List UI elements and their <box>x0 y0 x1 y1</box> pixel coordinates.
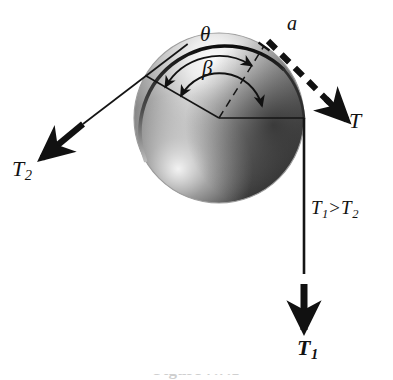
angle-label-beta: β <box>202 58 212 79</box>
tension-label-T2: T2 <box>12 158 32 183</box>
tension-inequality: T1>T2 <box>311 198 358 220</box>
inequality-rhs-base: T <box>341 197 352 218</box>
tension-label-T1: T1 <box>297 337 318 362</box>
inequality-operator: > <box>328 197 341 218</box>
figure-caption-strip: Figure 7.7.1 <box>0 374 393 380</box>
inequality-rhs-subscript: 2 <box>352 207 359 221</box>
rope-T2-arrow <box>42 124 83 158</box>
tension-label-T: T <box>349 110 361 132</box>
rope-T-arrow <box>326 99 347 120</box>
contact-point-label-a: a <box>287 13 297 33</box>
figure-caption: Figure 7.7.1 <box>0 374 393 380</box>
figure-container: θ β a T T2 T1 T1>T2 Figure 7.7.1 <box>0 0 393 380</box>
tension-label-T2-base: T <box>12 156 24 181</box>
tension-label-T1-base: T <box>297 335 310 360</box>
inequality-lhs-base: T <box>311 197 322 218</box>
tension-label-T1-subscript: 1 <box>310 346 318 362</box>
tension-label-T2-subscript: 2 <box>24 167 32 183</box>
angle-label-theta: θ <box>200 24 210 45</box>
physics-diagram <box>0 0 393 380</box>
